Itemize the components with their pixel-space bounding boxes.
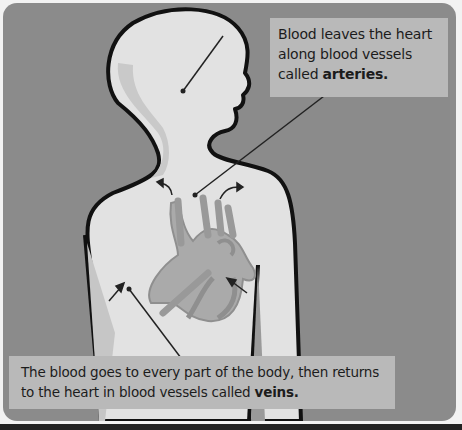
veins-callout: The blood goes to every part of the body…	[9, 356, 395, 409]
bottom-edge-strip	[0, 424, 462, 430]
veins-period: .	[294, 384, 299, 400]
diagram-panel: Blood leaves the heart along blood vesse…	[3, 3, 456, 421]
veins-callout-text: The blood goes to every part of the body…	[21, 364, 379, 400]
veins-term: veins	[255, 384, 294, 400]
arteries-term: arteries	[323, 66, 383, 82]
arteries-callout: Blood leaves the heart along blood vesse…	[270, 18, 448, 97]
arteries-period: .	[383, 66, 388, 82]
